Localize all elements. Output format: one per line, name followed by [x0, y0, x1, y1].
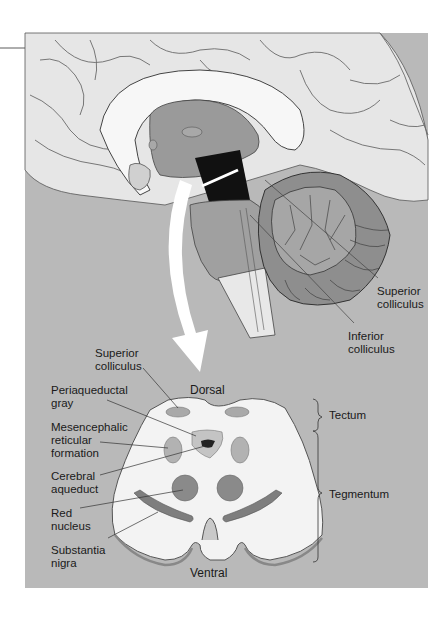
superior-colliculus-left	[166, 407, 190, 417]
label-periaqueductal-gray: Periaqueductal gray	[51, 384, 128, 410]
red-nucleus-right	[217, 475, 243, 501]
tectum-brace	[313, 399, 322, 431]
medulla	[218, 268, 275, 338]
label-inferior-colliculus-upper: Inferior colliculus	[348, 330, 395, 356]
label-substantia-nigra: Substantia nigra	[51, 544, 105, 570]
cerebellum	[250, 172, 390, 323]
label-superior-colliculus: Superior colliculus	[95, 347, 142, 373]
label-ventral: Ventral	[190, 566, 227, 580]
label-dorsal: Dorsal	[190, 383, 225, 397]
red-nucleus-left	[172, 475, 198, 501]
reticular-formation-right	[231, 437, 249, 463]
label-tectum: Tectum	[329, 409, 366, 422]
label-superior-colliculus-upper: Superior colliculus	[377, 285, 424, 311]
label-cerebral-aqueduct: Cerebral aqueduct	[51, 470, 98, 496]
midbrain-cross-section	[112, 398, 323, 566]
label-tegmentum: Tegmentum	[329, 488, 389, 501]
superior-colliculus-right	[225, 407, 249, 417]
label-red-nucleus: Red nucleus	[51, 507, 91, 533]
label-mesencephalic-reticular-formation: Mesencephalic reticular formation	[51, 421, 128, 460]
reticular-formation-left	[164, 437, 182, 463]
